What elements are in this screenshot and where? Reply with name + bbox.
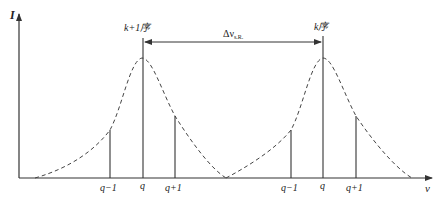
right-tick-q-plus-1: q+1: [346, 182, 363, 193]
right-tick-q-minus-1: q−1: [281, 182, 298, 193]
right-tick-q: q: [320, 180, 325, 191]
right-order-label: k序: [314, 21, 330, 32]
spacing-label: Δνs.R.: [223, 28, 244, 40]
y-axis-label: I: [9, 8, 16, 22]
x-axis-label: ν: [425, 182, 430, 194]
left-tick-q: q: [140, 180, 145, 191]
left-tick-q-plus-1: q+1: [165, 182, 182, 193]
right-gain-curve: [226, 58, 412, 178]
diagram-canvas: I ν Δνs.R. k+1序 k序 q−1 q q+1 q−1 q q+1: [0, 0, 441, 201]
left-gain-curve: [35, 58, 226, 178]
left-order-label: k+1序: [124, 22, 152, 33]
left-tick-q-minus-1: q−1: [100, 182, 117, 193]
